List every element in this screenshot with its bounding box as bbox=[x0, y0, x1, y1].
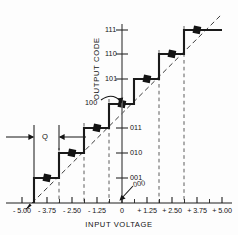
y-tick-label-111: 111 bbox=[105, 26, 116, 33]
x-tick-label-neg250: - 2.50 bbox=[63, 207, 81, 214]
y-axis-title: OUTPUT CODE bbox=[93, 37, 101, 100]
y-tick-label-011: 011 bbox=[130, 124, 142, 131]
x-axis-title: INPUT VOLTAGE bbox=[85, 221, 152, 229]
y-tick-label-101: 101 bbox=[105, 75, 117, 82]
x-tick-label-pos5: + 5.00 bbox=[212, 207, 232, 214]
code-000-callout-label: 000 bbox=[132, 179, 145, 188]
x-tick-label-pos375: + 3.75 bbox=[187, 207, 207, 214]
x-tick-label-zero: 0 bbox=[120, 207, 124, 214]
code-100-callout-label: 100 bbox=[85, 99, 97, 106]
x-tick-label-neg125: - 1.25 bbox=[88, 207, 106, 214]
x-tick-label-neg375: - 3.75 bbox=[38, 207, 56, 214]
ideal-transfer-line bbox=[25, 14, 222, 210]
x-tick-label-pos125: + 1.25 bbox=[137, 207, 157, 214]
transfer-function-plot bbox=[0, 0, 238, 235]
x-tick-label-pos250: + 2.50 bbox=[162, 207, 182, 214]
adc-transfer-function-figure: OUTPUT CODE 111 110 101 011 010 001 100 … bbox=[0, 0, 238, 235]
staircase-transfer-curve bbox=[34, 30, 222, 203]
x-tick-label-neg5: - 5.00 bbox=[13, 207, 31, 214]
y-tick-label-110: 110 bbox=[105, 50, 117, 57]
input-voltage-axis bbox=[6, 197, 232, 203]
output-code-axis bbox=[116, 24, 128, 203]
quantum-label: Q bbox=[42, 133, 48, 141]
x-major-ticks bbox=[22, 197, 222, 203]
y-tick-label-010: 010 bbox=[130, 149, 142, 156]
